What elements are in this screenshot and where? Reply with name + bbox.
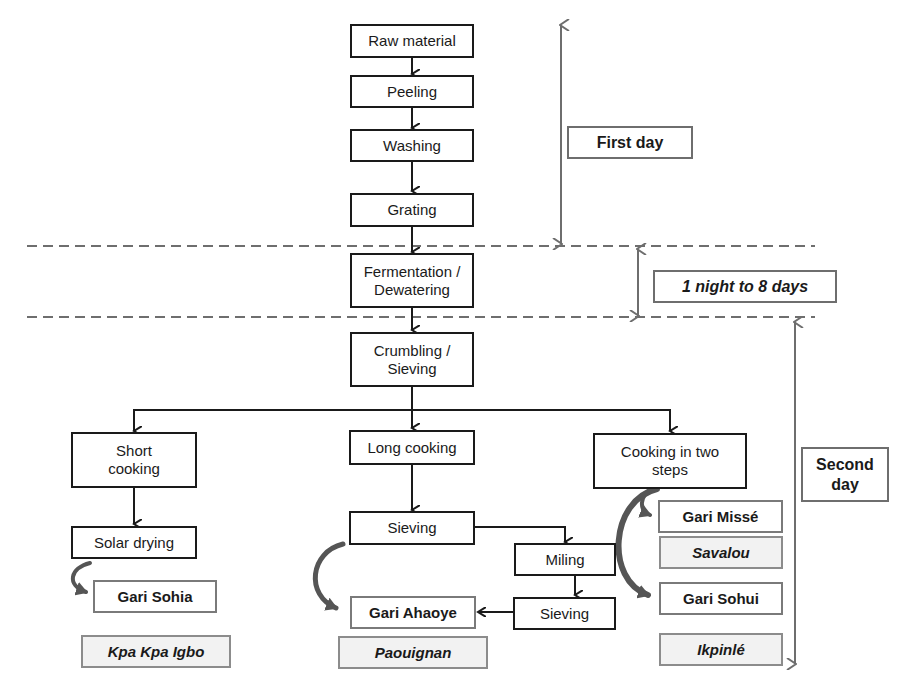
step-label: Crumbling / Sieving [366,342,458,378]
place-kpa-kpa-igbo: Kpa Kpa Igbo [81,635,231,668]
place-savalou: Savalou [659,536,783,569]
product-gari-misse: Gari Missé [658,500,783,533]
step-cooking-two-steps: Cooking in two steps [593,433,747,489]
product-gari-sohia: Gari Sohia [93,580,217,613]
step-peeling: Peeling [350,75,474,108]
step-label: Cooking in two steps [607,443,733,479]
time-label-second-day: Second day [801,447,889,502]
product-label: Gari Ahaoye [369,604,457,622]
curved-arrow-sohia [73,563,90,592]
step-label: Grating [387,201,436,219]
time-label-text: Second day [813,455,877,495]
step-label: Raw material [368,32,456,50]
product-gari-ahaoye: Gari Ahaoye [350,596,476,629]
step-milling: Miling [514,543,616,576]
step-long-cooking: Long cooking [349,430,475,465]
time-label-first-day: First day [567,126,693,159]
step-label: Short cooking [103,442,165,478]
place-ikpinle: Ikpinlé [659,633,783,666]
step-raw-material: Raw material [350,24,474,58]
step-label: Washing [383,137,441,155]
step-solar-drying: Solar drying [71,526,197,559]
product-label: Gari Missé [683,508,759,526]
place-label: Kpa Kpa Igbo [108,643,205,661]
place-label: Paouignan [375,644,452,662]
place-paouignan: Paouignan [338,636,488,669]
step-label: Sieving [540,605,589,623]
time-label-text: First day [597,133,664,153]
step-washing: Washing [350,129,474,162]
curved-arrow-sohui [619,489,657,595]
time-label-text: 1 night to 8 days [682,277,808,297]
step-label: Fermentation / Dewatering [356,263,468,299]
step-label: Sieving [387,519,436,537]
step-grating: Grating [350,193,474,227]
product-label: Gari Sohui [683,590,759,608]
time-label-night: 1 night to 8 days [653,270,837,303]
step-crumbling: Crumbling / Sieving [350,332,474,387]
product-label: Gari Sohia [117,588,192,606]
place-label: Ikpinlé [697,641,745,659]
step-label: Miling [545,551,584,569]
product-gari-sohui: Gari Sohui [659,582,783,615]
step-label: Long cooking [367,439,456,457]
step-label: Peeling [387,83,437,101]
step-sieving-1: Sieving [349,511,475,545]
place-label: Savalou [692,544,750,562]
curved-arrow-ahaoye [315,544,343,608]
step-label: Solar drying [94,534,174,552]
step-short-cooking: Short cooking [71,432,197,488]
step-sieving-2: Sieving [513,597,616,630]
step-fermentation: Fermentation / Dewatering [350,253,474,308]
